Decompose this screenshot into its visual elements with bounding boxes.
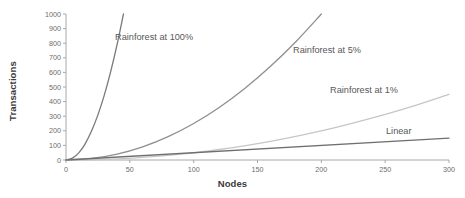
y-tick-label: 1000: [35, 10, 61, 19]
x-tick-label: 100: [181, 165, 207, 174]
y-tick-label: 200: [35, 126, 61, 135]
y-tick-label: 400: [35, 97, 61, 106]
series-label-1: Rainforest at 5%: [293, 45, 361, 55]
y-tick-label: 900: [35, 24, 61, 33]
series-label-2: Rainforest at 1%: [330, 85, 398, 95]
x-tick-label: 0: [53, 165, 79, 174]
transactions-vs-nodes-chart: Transactions Nodes 010020030040050060070…: [0, 0, 465, 198]
y-tick-label: 700: [35, 53, 61, 62]
y-tick-label: 100: [35, 141, 61, 150]
x-tick-label: 150: [245, 165, 271, 174]
y-tick-label: 300: [35, 112, 61, 121]
x-tick-label: 200: [308, 165, 334, 174]
x-tick-label: 50: [117, 165, 143, 174]
series-line-1: [66, 14, 321, 160]
series-label-3: Linear: [386, 126, 412, 136]
series-line-3: [66, 138, 449, 160]
x-tick-label: 250: [372, 165, 398, 174]
y-tick-label: 500: [35, 83, 61, 92]
y-tick-label: 600: [35, 68, 61, 77]
series-label-0: Rainforest at 100%: [115, 32, 193, 42]
y-tick-label: 0: [35, 156, 61, 165]
x-tick-label: 300: [436, 165, 462, 174]
y-tick-label: 800: [35, 39, 61, 48]
